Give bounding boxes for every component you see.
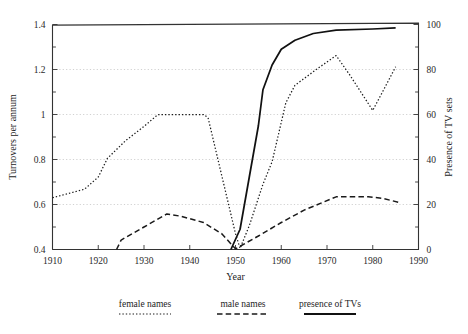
series-female-names (53, 56, 396, 249)
y-tick-label: 1.4 (34, 20, 46, 30)
y-tick-label: 1.2 (34, 65, 46, 75)
y-tick-label: 0.4 (34, 245, 46, 255)
y-tick-label: 1 (41, 110, 46, 120)
y2-tick-label: 20 (427, 200, 437, 210)
legend-label-solid: presence of TVs (299, 299, 361, 309)
chart-legend: female namesmale namespresence of TVs (119, 299, 362, 314)
x-tick-label: 1910 (43, 256, 62, 266)
y2-axis-title: Presence of TV sets (443, 97, 454, 176)
x-tick-label: 1970 (318, 256, 337, 266)
y-tick-label: 0.6 (34, 200, 46, 210)
line-chart: 191019201930194019501960197019801990 0.4… (0, 0, 468, 334)
legend-label-dashed: male names (220, 299, 265, 309)
y2-tick-labels: 020406080100 (427, 20, 442, 255)
gridlines (53, 70, 419, 205)
series-layer (53, 28, 401, 250)
x-axis-title: Year (226, 271, 245, 282)
x-tick-label: 1960 (272, 256, 291, 266)
x-tick-label: 1940 (180, 256, 199, 266)
y2-tick-label: 100 (427, 20, 442, 30)
y2-tick-label: 80 (427, 65, 437, 75)
x-tick-label: 1920 (89, 256, 108, 266)
x-tick-label: 1990 (409, 256, 428, 266)
y2-tick-label: 60 (427, 110, 437, 120)
x-tick-labels: 191019201930194019501960197019801990 (43, 256, 428, 266)
axis-titles: YearTurnovers per annumPresence of TV se… (7, 94, 454, 282)
y2-tick-label: 0 (427, 245, 432, 255)
axis-ticks (53, 25, 419, 250)
plot-frame (53, 23, 419, 249)
y-tick-labels: 0.40.60.811.21.4 (34, 20, 46, 255)
x-tick-label: 1950 (226, 256, 245, 266)
y2-tick-label: 40 (427, 155, 437, 165)
legend-label-dotted: female names (119, 299, 172, 309)
x-tick-label: 1980 (363, 256, 382, 266)
chart-figure: 191019201930194019501960197019801990 0.4… (0, 0, 468, 334)
y-tick-label: 0.8 (34, 155, 46, 165)
x-tick-label: 1930 (135, 256, 154, 266)
y-axis-title: Turnovers per annum (7, 94, 18, 180)
series-presence-of-tvs (231, 28, 396, 250)
